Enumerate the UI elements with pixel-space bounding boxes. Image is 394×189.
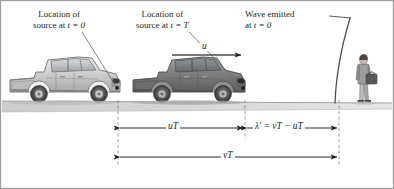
figure-canvas: Location of source at t = 0 Location of … — [0, 0, 394, 189]
figure-frame — [0, 0, 394, 189]
